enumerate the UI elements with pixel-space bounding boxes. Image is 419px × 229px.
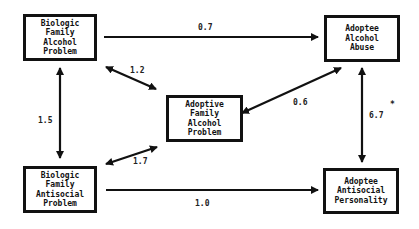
node-adoptee-antisocial-personality: Adoptee Antisocial Personality — [323, 168, 399, 214]
node-line: Adoptee — [345, 24, 379, 34]
node-line: Problem — [43, 199, 77, 209]
node-line: Antisocial — [36, 190, 84, 200]
node-line: Adoptive — [185, 100, 224, 110]
edge-adoptee-alcohol-adoptive-alcohol — [242, 68, 341, 113]
node-line: Biologic — [41, 19, 80, 29]
node-adoptive-family-alcohol-problem: Adoptive Family Alcohol Problem — [166, 95, 243, 142]
edge-label-0-6: 0.6 — [293, 98, 307, 107]
node-biologic-family-antisocial-problem: Biologic Family Antisocial Problem — [23, 166, 97, 213]
node-line: Problem — [43, 47, 77, 57]
node-line: Biologic — [41, 171, 80, 181]
edge-label-1-7: 1.7 — [133, 157, 147, 166]
node-line: Alcohol — [43, 38, 77, 48]
edge-label-1-5: 1.5 — [38, 116, 52, 125]
node-line: Alcohol — [345, 34, 379, 44]
node-line: Abuse — [350, 43, 374, 53]
edge-label-6-7: 6.7 — [369, 111, 383, 120]
edge-label-0-7: 0.7 — [198, 23, 212, 32]
path-diagram: Biologic Family Alcohol Problem Adoptee … — [0, 0, 419, 229]
node-line: Family — [190, 109, 219, 119]
node-line: Alcohol — [188, 119, 222, 129]
node-biologic-family-alcohol-problem: Biologic Family Alcohol Problem — [23, 14, 97, 61]
node-adoptee-alcohol-abuse: Adoptee Alcohol Abuse — [324, 15, 400, 62]
node-line: Problem — [188, 128, 222, 138]
node-line: Antisocial — [337, 186, 385, 196]
edge-label-1-0: 1.0 — [195, 199, 209, 208]
node-line: Personality — [335, 196, 388, 206]
edge-label-1-2: 1.2 — [130, 66, 144, 75]
significance-asterisk: * — [390, 100, 395, 109]
node-line: Adoptee — [344, 177, 378, 187]
node-line: Family — [46, 28, 75, 38]
node-line: Family — [46, 180, 75, 190]
edge-bio-antisocial-adoptive-alcohol — [106, 147, 157, 164]
